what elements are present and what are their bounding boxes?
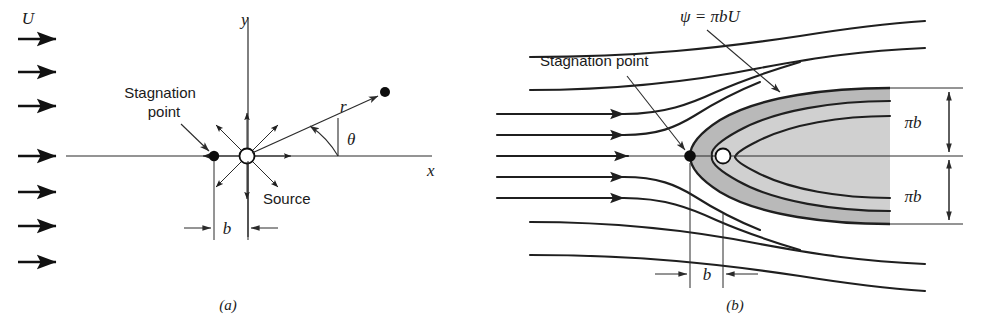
stagnation-leader-a	[181, 124, 209, 151]
stagnation-point-marker-a	[209, 151, 219, 161]
panel-b: Stagnation point ψ = πbU b	[497, 7, 963, 314]
radius-line-a	[252, 96, 378, 153]
source-marker-a	[240, 149, 255, 164]
pi-b-label-lower: πb	[904, 187, 921, 206]
stagnation-point-label-line1-a: Stagnation	[124, 84, 196, 101]
panel-b-caption: (b)	[726, 297, 744, 314]
pi-b-dimensions-b: πb πb	[890, 88, 963, 224]
streamfunction-leader-b	[707, 30, 780, 92]
panel-a-caption: (a)	[219, 297, 237, 314]
x-axis-label-a: x	[426, 161, 435, 180]
source-label-a: Source	[263, 190, 311, 207]
b-dimension-label-b: b	[703, 265, 712, 284]
stagnation-point-marker-b	[684, 150, 696, 162]
pi-b-label-upper: πb	[904, 113, 921, 132]
stagnation-point-label-line2-a: point	[148, 103, 181, 120]
stagnation-point-label-b: Stagnation point	[540, 52, 649, 69]
streamfunction-label-b: ψ = πbU	[680, 7, 742, 26]
theta-arc-a	[310, 126, 338, 156]
theta-label-a: θ	[347, 130, 355, 149]
panel-a: U x y Stagnation	[18, 9, 435, 314]
freestream-arrows-a	[18, 39, 56, 262]
b-dimension-label-a: b	[223, 219, 232, 238]
radius-label-a: r	[340, 97, 347, 116]
streamline-outer-lower-mid	[530, 222, 925, 264]
freestream-velocity-label-a: U	[22, 9, 36, 28]
source-marker-b	[716, 149, 731, 164]
y-axis-label-a: y	[239, 10, 249, 29]
field-point-marker-a	[380, 87, 390, 97]
figure-rankine-half-body: U x y Stagnation	[0, 0, 985, 325]
